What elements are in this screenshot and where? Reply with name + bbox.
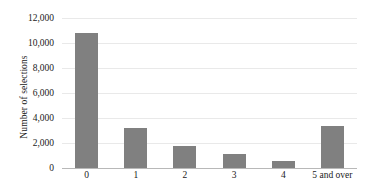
y-tick-label: 2,000 <box>33 138 54 148</box>
axis-baseline <box>62 168 357 169</box>
bar-series <box>62 18 357 168</box>
y-tick-label: 8,000 <box>33 63 54 73</box>
y-tick-label: 4,000 <box>33 113 54 123</box>
bar <box>173 146 196 169</box>
x-tick-label: 3 <box>232 170 237 180</box>
y-tick-label: 12,000 <box>28 13 54 23</box>
y-tick-label: 10,000 <box>28 38 54 48</box>
x-tick-label: 2 <box>183 170 188 180</box>
bar <box>75 33 98 169</box>
y-tick-label: 0 <box>49 163 54 173</box>
bar <box>124 128 147 168</box>
plot-area <box>62 18 357 168</box>
x-tick-label: 1 <box>133 170 138 180</box>
bar <box>272 161 295 169</box>
bar <box>223 154 246 168</box>
x-tick-label: 4 <box>281 170 286 180</box>
x-tick-label: 0 <box>84 170 89 180</box>
y-axis-tick-labels: 02,0004,0006,0008,00010,00012,000 <box>0 18 58 168</box>
bar-chart: Number of selections 02,0004,0006,0008,0… <box>0 0 369 194</box>
x-tick-label: 5 and over <box>312 170 352 180</box>
y-tick-label: 6,000 <box>33 88 54 98</box>
x-axis-tick-labels: 012345 and over <box>62 170 357 190</box>
bar <box>321 126 344 168</box>
